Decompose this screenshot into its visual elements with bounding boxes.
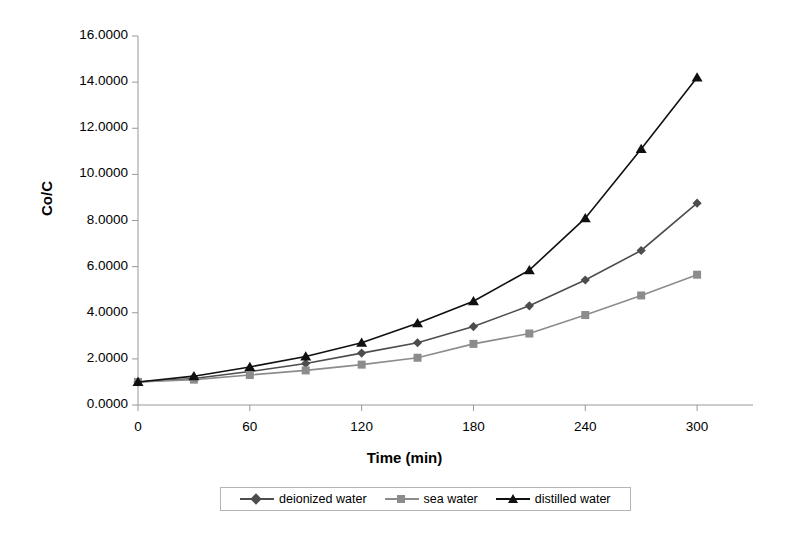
legend-label: deionized water	[279, 492, 367, 506]
legend-marker-square-icon	[385, 493, 419, 505]
y-tick-label: 16.0000	[56, 27, 128, 42]
y-tick-label: 12.0000	[56, 119, 128, 134]
marker-diamond	[581, 275, 590, 284]
marker-square	[414, 354, 422, 362]
legend-marker-diamond-icon	[240, 493, 274, 505]
legend-marker-triangle-icon	[496, 493, 530, 505]
marker-diamond	[525, 301, 534, 310]
marker-triangle	[692, 72, 703, 81]
marker-square	[302, 366, 310, 374]
marker-square	[358, 361, 366, 369]
marker-diamond	[357, 349, 366, 358]
chart-figure: Co/C Time (min) 0.00002.00004.00006.0000…	[0, 0, 809, 543]
legend-entry: distilled water	[496, 492, 611, 506]
marker-square	[693, 271, 701, 279]
x-tick-label: 180	[443, 419, 503, 434]
legend-label: sea water	[424, 492, 478, 506]
y-tick-label: 2.0000	[56, 350, 128, 365]
x-tick-label: 60	[220, 419, 280, 434]
series-line	[138, 78, 697, 382]
x-tick-label: 0	[108, 419, 168, 434]
y-tick-label: 10.0000	[56, 165, 128, 180]
marker-square	[525, 330, 533, 338]
y-axis-title: Co/C	[38, 139, 55, 259]
marker-square	[246, 371, 254, 379]
legend-label: distilled water	[535, 492, 611, 506]
y-tick-label: 0.0000	[56, 396, 128, 411]
marker-triangle	[412, 318, 423, 327]
marker-diamond	[413, 338, 422, 347]
marker-triangle	[468, 296, 479, 305]
marker-square	[637, 291, 645, 299]
series-sea-water	[134, 271, 701, 386]
x-tick-label: 240	[555, 419, 615, 434]
x-tick-label: 300	[667, 419, 727, 434]
marker-diamond	[469, 322, 478, 331]
marker-square	[469, 340, 477, 348]
x-axis-title: Time (min)	[0, 449, 809, 466]
y-tick-label: 8.0000	[56, 212, 128, 227]
legend-entry: deionized water	[240, 492, 367, 506]
y-tick-label: 4.0000	[56, 304, 128, 319]
legend-entry: sea water	[385, 492, 478, 506]
series-line	[138, 275, 697, 382]
chart-legend: deionized watersea waterdistilled water	[220, 487, 631, 511]
y-tick-label: 14.0000	[56, 73, 128, 88]
marker-square	[581, 311, 589, 319]
y-tick-label: 6.0000	[56, 258, 128, 273]
x-tick-label: 120	[332, 419, 392, 434]
